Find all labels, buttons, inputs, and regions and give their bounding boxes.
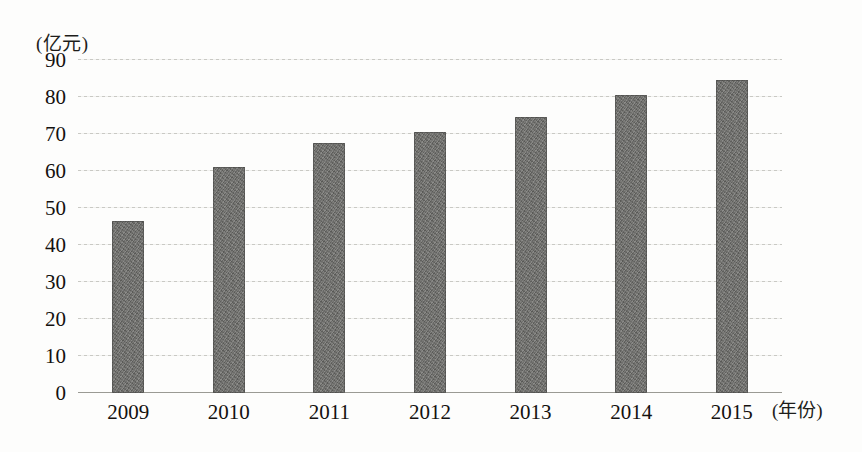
bar-chart-figure: (亿元) 0102030405060708090 (年份) 2009201020… bbox=[0, 0, 862, 452]
bar bbox=[313, 143, 345, 393]
x-axis-tick-label: 2013 bbox=[510, 402, 552, 423]
y-axis-tick-label: 0 bbox=[56, 383, 67, 404]
gridline bbox=[78, 96, 782, 97]
x-axis-title: (年份) bbox=[772, 401, 823, 422]
y-axis-tick-label: 30 bbox=[45, 272, 66, 293]
bar bbox=[112, 221, 144, 393]
bar bbox=[716, 80, 748, 393]
y-axis-tick-label: 80 bbox=[45, 87, 66, 108]
x-axis-tick-label: 2011 bbox=[309, 402, 350, 423]
x-axis-tick-label: 2010 bbox=[208, 402, 250, 423]
bar bbox=[213, 167, 245, 393]
gridline bbox=[78, 59, 782, 60]
bar bbox=[515, 117, 547, 393]
y-axis-tick-label: 60 bbox=[45, 161, 66, 182]
y-axis-tick-label: 40 bbox=[45, 235, 66, 256]
plot-area: 0102030405060708090 bbox=[78, 60, 782, 393]
y-axis-tick-label: 20 bbox=[45, 309, 66, 330]
y-axis-tick-label: 70 bbox=[45, 124, 66, 145]
x-axis-tick-label: 2014 bbox=[610, 402, 652, 423]
x-axis-tick-label: 2015 bbox=[711, 402, 753, 423]
bar bbox=[414, 132, 446, 393]
y-axis-tick-label: 90 bbox=[45, 50, 66, 71]
y-axis-tick-label: 10 bbox=[45, 346, 66, 367]
y-axis-tick-label: 50 bbox=[45, 198, 66, 219]
x-axis-tick-label: 2012 bbox=[409, 402, 451, 423]
bar bbox=[615, 95, 647, 393]
x-axis-tick-label: 2009 bbox=[107, 402, 149, 423]
